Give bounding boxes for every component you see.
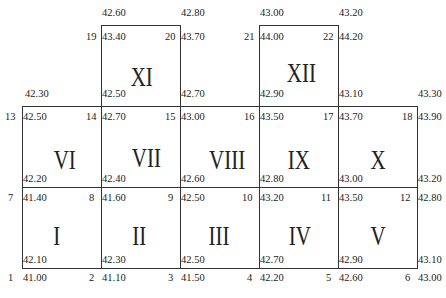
cell-label: IV — [289, 222, 311, 250]
elevation-value: 42.60 — [339, 272, 363, 283]
elevation-value: 42.70 — [181, 88, 205, 99]
cell-label: I — [53, 222, 60, 250]
elevation-value: 43.00 — [339, 173, 363, 184]
elevation-value: 42.90 — [339, 254, 363, 265]
elevation-value: 42.30 — [102, 254, 126, 265]
corner-number: 16 — [244, 111, 255, 122]
corner-number: 11 — [321, 192, 331, 203]
cell-label: III — [208, 222, 229, 250]
elevation-value: 42.50 — [23, 111, 47, 122]
cell-label: VIII — [209, 146, 245, 174]
elevation-value: 43.70 — [181, 31, 205, 42]
corner-number: 10 — [242, 192, 253, 203]
corner-number: 17 — [323, 111, 334, 122]
corner-number: 18 — [402, 111, 413, 122]
cell-label: VII — [132, 144, 161, 172]
elevation-value: 43.20 — [418, 173, 442, 184]
elevation-value: 43.40 — [102, 31, 126, 42]
elevation-value: 41.40 — [23, 192, 47, 203]
corner-number: 2 — [89, 272, 94, 283]
elevation-value: 43.10 — [418, 254, 442, 265]
elevation-value: 41.00 — [23, 272, 47, 283]
cell-label: XII — [287, 59, 316, 87]
elevation-value: 44.20 — [339, 31, 363, 42]
elevation-value: 42.60 — [181, 173, 205, 184]
corner-number: 5 — [326, 272, 331, 283]
corner-number: 19 — [86, 31, 97, 42]
elevation-value: 42.20 — [23, 173, 47, 184]
corner-number: 20 — [165, 31, 176, 42]
elevation-value: 43.00 — [181, 111, 205, 122]
elevation-value: 42.70 — [102, 111, 126, 122]
elevation-value: 42.30 — [25, 88, 49, 99]
cell-label: VI — [54, 146, 76, 174]
elevation-value: 44.00 — [260, 31, 284, 42]
elevation-value: 41.10 — [102, 272, 126, 283]
corner-number: 22 — [323, 31, 334, 42]
elevation-value: 42.60 — [102, 7, 126, 18]
cell-label: II — [132, 222, 146, 250]
elevation-value: 42.40 — [102, 173, 126, 184]
elevation-value: 42.80 — [260, 173, 284, 184]
corner-number: 14 — [86, 111, 97, 122]
corner-number: 13 — [5, 111, 16, 122]
elevation-value: 42.90 — [260, 88, 284, 99]
elevation-value: 43.00 — [260, 7, 284, 18]
corner-number: 7 — [8, 192, 13, 203]
cell-label: X — [371, 146, 386, 174]
elevation-value: 43.90 — [418, 111, 442, 122]
corner-number: 8 — [89, 192, 94, 203]
elevation-value: 43.20 — [260, 192, 284, 203]
elevation-value: 42.80 — [181, 7, 205, 18]
elevation-value: 41.50 — [181, 272, 205, 283]
corner-number: 9 — [168, 192, 173, 203]
elevation-value: 43.30 — [418, 88, 442, 99]
corner-number: 3 — [168, 272, 173, 283]
elevation-value: 42.50 — [102, 88, 126, 99]
elevation-value: 42.50 — [181, 192, 205, 203]
elevation-value: 43.20 — [339, 7, 363, 18]
corner-number: 15 — [165, 111, 176, 122]
corner-number: 21 — [244, 31, 255, 42]
corner-number: 4 — [247, 272, 252, 283]
corner-number: 6 — [405, 272, 410, 283]
elevation-value: 43.10 — [339, 88, 363, 99]
corner-number: 1 — [8, 272, 13, 283]
elevation-value: 43.50 — [260, 111, 284, 122]
elevation-value: 42.20 — [260, 272, 284, 283]
elevation-value: 41.60 — [102, 192, 126, 203]
elevation-value: 42.80 — [418, 192, 442, 203]
cell-label: XI — [131, 63, 153, 91]
elevation-value: 42.50 — [181, 254, 205, 265]
elevation-value: 43.50 — [339, 192, 363, 203]
cell-label: IX — [288, 146, 310, 174]
cell-label: V — [371, 222, 386, 250]
elevation-value: 43.70 — [339, 111, 363, 122]
elevation-value: 42.70 — [260, 254, 284, 265]
elevation-value: 43.00 — [418, 272, 442, 283]
elevation-value: 42.10 — [23, 254, 47, 265]
corner-number: 12 — [400, 192, 411, 203]
